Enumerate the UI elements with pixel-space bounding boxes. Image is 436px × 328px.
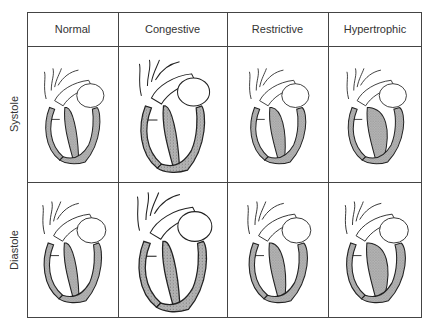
heart-illustration-systole-congestive [118,46,227,182]
heart-illustration-systole-normal [27,46,118,182]
column-header-restrictive: Restrictive [227,12,328,46]
row-header-diastole: Diastole [7,210,21,290]
column-header-congestive: Congestive [118,12,227,46]
heart-illustration-systole-hypertrophic [328,46,422,182]
heart-illustration-diastole-congestive [118,182,227,318]
column-header-normal: Normal [27,12,118,46]
column-header-hypertrophic: Hypertrophic [328,12,422,46]
heart-illustration-diastole-normal [27,182,118,318]
heart-illustration-diastole-hypertrophic [328,182,422,318]
row-header-systole: Systole [7,74,21,154]
heart-illustration-systole-restrictive [227,46,328,182]
heart-illustration-diastole-restrictive [227,182,328,318]
